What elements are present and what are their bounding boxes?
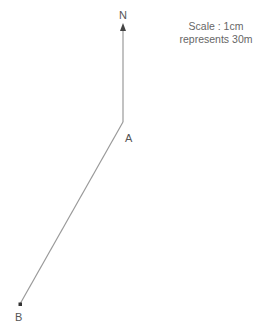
scale-note: Scale : 1cm represents 30m [170,20,262,46]
point-a-label: A [125,132,132,144]
point-b-label: B [15,311,22,323]
north-arrow-icon [120,23,126,31]
north-label: N [119,9,127,21]
point-b-marker [19,303,23,307]
scale-line-1: Scale : 1cm [170,20,262,33]
path-a-to-b [20,122,123,304]
bearing-diagram [0,0,262,332]
scale-line-2: represents 30m [170,33,262,46]
